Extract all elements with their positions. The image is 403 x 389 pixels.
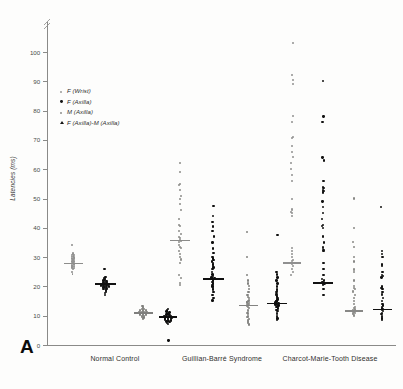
data-point [211,299,213,301]
data-point [292,115,294,117]
data-point [103,268,105,270]
data-point [142,318,144,320]
data-point [248,323,250,325]
data-point [322,284,324,286]
data-point [180,277,182,279]
data-point [292,156,294,158]
data-point [212,225,214,227]
data-point [353,271,355,273]
mean-bar [239,305,258,306]
data-point [180,233,182,235]
data-point [246,274,248,276]
data-point [292,271,294,273]
data-point [292,42,294,44]
data-point [179,171,181,173]
data-point [291,174,293,176]
mean-bar [170,240,190,241]
data-point [292,265,294,267]
data-point [290,162,292,164]
data-point [247,279,249,281]
data-point [381,265,383,267]
data-point [322,191,324,193]
data-point [322,288,324,290]
data-point [179,284,181,286]
data-point [72,273,74,275]
data-point [211,268,213,270]
data-point [353,279,355,281]
data-point [212,252,214,254]
data-point [247,282,249,284]
data-point [353,246,355,248]
data-point [167,323,169,325]
data-point [322,268,324,270]
data-point [353,315,355,317]
data-point [353,297,355,299]
data-point [352,291,354,293]
data-point [354,294,356,296]
data-point [322,206,324,208]
data-point [322,262,324,264]
data-point [381,319,383,321]
data-point [291,253,293,255]
data-point [380,206,382,208]
data-point [353,260,355,262]
mean-bar [373,309,392,310]
data-point [322,294,324,296]
data-point [353,227,355,229]
data-point [179,189,181,191]
data-point [353,303,355,305]
data-point [178,218,180,220]
data-point [291,215,293,217]
mean-bar [267,303,287,304]
data-point [321,218,323,220]
data-point [248,285,250,287]
data-point [322,80,324,82]
data-point [179,203,181,205]
data-point [179,262,181,264]
data-point [291,137,293,139]
group-label-0: Normal Control [55,355,175,362]
data-point [290,168,292,170]
data-point [71,244,73,246]
mean-bar [345,310,363,311]
figure-panel: Latencies (ms) 0102030405060708090100 F … [0,0,403,389]
data-point [108,285,110,287]
plot-data-area [0,0,403,389]
data-point [291,212,293,214]
data-point [322,227,324,229]
data-point [213,235,215,237]
data-point [353,197,355,199]
data-point [381,256,383,258]
data-point [291,180,293,182]
data-point [276,319,278,321]
data-point [178,274,180,276]
data-point [321,121,323,123]
data-point [353,300,355,302]
data-point [180,259,182,261]
data-point [178,184,180,186]
data-point [104,294,106,296]
data-point [291,145,293,147]
data-point [381,288,383,290]
data-point [178,230,180,232]
data-point [323,241,325,243]
data-point [178,241,180,243]
data-point [380,276,382,278]
data-point [291,121,293,123]
mean-bar [203,278,224,279]
data-point [291,247,293,249]
data-point [291,74,293,76]
data-point [381,294,383,296]
data-point [291,256,293,258]
panel-label: A [20,337,34,356]
data-point [321,200,323,202]
data-point [72,268,74,270]
data-point [178,250,180,252]
data-point [292,83,294,85]
data-point [291,198,293,200]
data-point [381,250,383,252]
data-point [353,256,355,258]
data-point [212,215,214,217]
mean-bar [134,312,153,313]
data-point [179,253,181,255]
